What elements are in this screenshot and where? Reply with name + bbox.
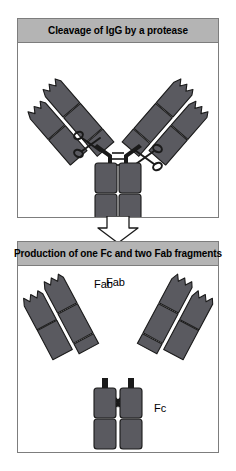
igg-right-arm — [122, 77, 215, 173]
panel-cleavage-body — [18, 43, 218, 217]
panel-fragments-header: Production of one Fc and two Fab fragmen… — [18, 242, 218, 266]
igg-cleavage-figure: Cleavage of IgG by a protease — [0, 0, 236, 471]
panel-fragments-title: Production of one Fc and two Fab fragmen… — [14, 248, 222, 259]
panel-cleavage-header: Cleavage of IgG by a protease — [18, 19, 218, 43]
igg-fc-stem — [95, 163, 141, 217]
fragments-illustration: Fab — [18, 266, 218, 452]
igg-left-arm — [21, 77, 114, 173]
fab-right-label: Fab — [94, 278, 113, 290]
transition-arrow — [0, 216, 236, 244]
panel-fragments: Production of one Fc and two Fab fragmen… — [17, 241, 219, 453]
igg-intact-illustration — [18, 43, 218, 217]
fc-label: Fc — [154, 402, 167, 414]
panel-cleavage: Cleavage of IgG by a protease — [17, 18, 219, 218]
panel-cleavage-title: Cleavage of IgG by a protease — [48, 25, 188, 36]
panel-fragments-body: Fab — [18, 266, 218, 452]
fc-fragment — [94, 378, 142, 449]
down-arrow-icon — [98, 216, 138, 243]
